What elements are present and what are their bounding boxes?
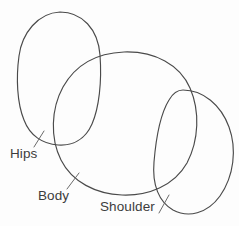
sketch-canvas: Hips Body Shoulder xyxy=(0,0,239,226)
hips-ellipse xyxy=(17,12,100,145)
body-ellipse xyxy=(53,52,196,195)
body-label: Body xyxy=(38,189,69,203)
hips-label: Hips xyxy=(10,147,37,161)
shoulder-ellipse xyxy=(154,90,234,214)
hips-leader-line xyxy=(34,131,44,147)
shoulder-label: Shoulder xyxy=(100,200,155,214)
sketch-drawing xyxy=(0,0,239,226)
